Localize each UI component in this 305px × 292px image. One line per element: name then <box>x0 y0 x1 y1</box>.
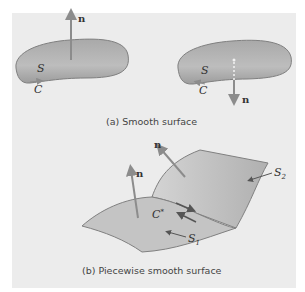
smooth-surface-left: n S C <box>16 13 129 96</box>
smooth-surface-right: n S C <box>178 40 292 105</box>
piecewise-surface: n n C* S2 S1 <box>82 139 287 252</box>
normal-label: n <box>242 94 250 105</box>
curve-label: C <box>199 84 208 97</box>
surface-label: S <box>201 64 209 77</box>
surfaces-diagram: n S C n S C (a) Smooth surface n n C* S2 <box>0 0 305 292</box>
caption-a: (a) Smooth surface <box>106 116 197 127</box>
normal-label: n <box>78 13 86 24</box>
curve-label: C <box>34 83 43 96</box>
normal-label-s2: n <box>154 139 162 150</box>
surface2-label: S2 <box>274 166 287 181</box>
caption-b: (b) Piecewise smooth surface <box>82 265 222 276</box>
normal-label-s1: n <box>136 168 144 179</box>
surface-label: S <box>37 62 45 75</box>
